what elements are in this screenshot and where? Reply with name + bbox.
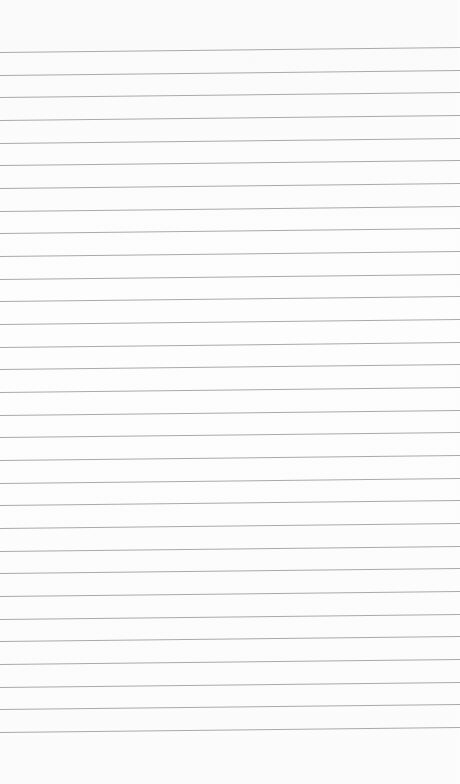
ruled-line [0,614,460,620]
ruled-line [0,274,460,280]
ruled-line [0,387,460,393]
ruled-line [0,455,460,461]
ruled-line [0,682,460,688]
ruled-line [0,478,460,484]
ruled-line [0,228,460,234]
ruled-line [0,160,460,166]
ruled-line [0,342,460,348]
ruled-line [0,364,460,370]
ruled-line [0,319,460,325]
ruled-line [0,727,460,733]
ruled-line [0,70,460,76]
ruled-line [0,410,460,416]
ruled-line [0,138,460,144]
ruled-line [0,659,460,665]
ruled-line [0,704,460,710]
ruled-line [0,546,460,552]
ruled-line [0,251,460,257]
ruled-line [0,568,460,574]
ruled-line [0,206,460,212]
ruled-line [0,296,460,302]
ruled-line [0,500,460,506]
ruled-line [0,523,460,529]
ruled-line [0,591,460,597]
ruled-line [0,115,460,121]
ruled-line [0,636,460,642]
ruled-line [0,47,460,53]
ruled-line [0,432,460,438]
ruled-line [0,92,460,98]
ruled-line [0,183,460,189]
